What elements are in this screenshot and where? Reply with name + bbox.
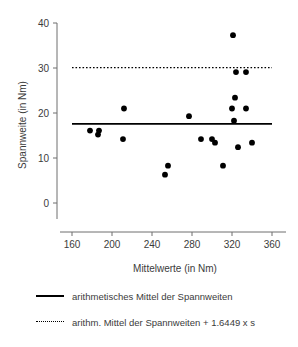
data-point: [229, 106, 235, 112]
y-axis-title: Spannweite (in Nm): [17, 81, 28, 169]
x-tick-label: 160: [64, 239, 81, 250]
solid-line-swatch-icon: [36, 291, 64, 301]
chart-figure: 010203040 160200240280320360 Mittelwerte…: [0, 0, 298, 347]
legend-item-upper-limit: arithm. Mittel der Spannweiten + 1.6449 …: [0, 309, 298, 335]
dotted-line-swatch-icon: [36, 317, 64, 327]
legend-label-upper-limit: arithm. Mittel der Spannweiten + 1.6449 …: [72, 317, 255, 328]
data-point: [186, 113, 192, 119]
data-point: [165, 163, 171, 169]
y-tick-label: 40: [38, 18, 50, 29]
data-point: [87, 128, 93, 134]
y-axis: 010203040: [38, 18, 57, 220]
data-point: [198, 136, 204, 142]
data-point: [121, 106, 127, 112]
data-point: [231, 118, 237, 124]
data-point: [120, 136, 126, 142]
data-point: [232, 95, 238, 101]
chart-svg: 010203040 160200240280320360 Mittelwerte…: [0, 0, 298, 280]
y-tick-label: 0: [43, 198, 49, 209]
legend-label-mean: arithmetisches Mittel der Spannweiten: [72, 291, 233, 302]
data-point: [220, 163, 226, 169]
x-tick-label: 320: [224, 239, 241, 250]
x-tick-label: 240: [144, 239, 161, 250]
data-point: [96, 128, 102, 134]
x-axis-title: Mittelwerte (in Nm): [133, 263, 217, 274]
data-point: [230, 32, 236, 38]
data-point: [162, 172, 168, 178]
data-point: [235, 144, 241, 150]
data-point: [243, 106, 249, 112]
x-tick-group: 160200240280320360: [64, 232, 281, 250]
y-tick-group: 010203040: [38, 18, 57, 209]
y-tick-label: 20: [38, 108, 50, 119]
reference-lines-group: [72, 68, 272, 124]
data-point: [249, 140, 255, 146]
data-point: [233, 69, 239, 75]
x-tick-label: 280: [184, 239, 201, 250]
x-tick-label: 200: [104, 239, 121, 250]
scatter-plot: 010203040 160200240280320360 Mittelwerte…: [0, 0, 298, 280]
data-points-group: [87, 32, 255, 177]
data-point: [212, 140, 218, 146]
legend-item-mean: arithmetisches Mittel der Spannweiten: [0, 283, 298, 309]
data-point: [243, 69, 249, 75]
x-axis: 160200240280320360: [60, 232, 286, 250]
chart-legend: arithmetisches Mittel der Spannweiten ar…: [0, 283, 298, 347]
y-tick-label: 30: [38, 63, 50, 74]
x-tick-label: 360: [264, 239, 281, 250]
y-tick-label: 10: [38, 153, 50, 164]
